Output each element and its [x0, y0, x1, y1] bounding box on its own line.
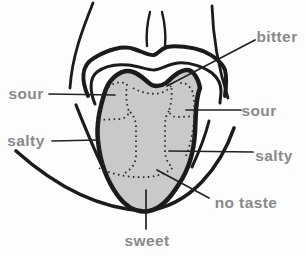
label-sweet: sweet — [124, 232, 169, 249]
taste-map-canvas: bitter sour sour salty salty no taste sw… — [0, 0, 306, 256]
label-sour-left: sour — [8, 85, 43, 102]
philtrum-left-line — [147, 12, 150, 46]
label-salty-left: salty — [7, 132, 44, 149]
tongue-taste-map-diagram: bitter sour sour salty salty no taste sw… — [0, 0, 306, 256]
label-no-taste: no taste — [215, 194, 278, 211]
sour-left-leader-line — [49, 94, 115, 95]
label-salty-right: salty — [255, 147, 292, 164]
salty-left-leader-line — [52, 140, 98, 141]
tongue-shape — [97, 70, 200, 212]
label-sour-right: sour — [241, 102, 276, 119]
salty-right-leader-line — [169, 151, 253, 152]
label-bitter: bitter — [256, 28, 297, 45]
philtrum-right-line — [162, 12, 165, 46]
